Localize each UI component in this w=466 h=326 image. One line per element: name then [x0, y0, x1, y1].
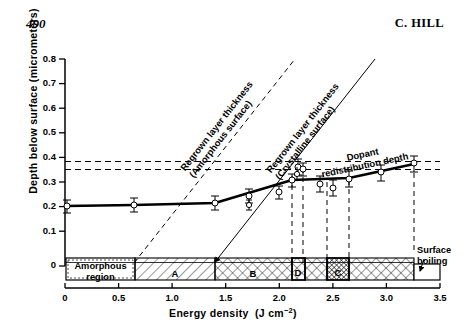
region-label-a: A: [155, 268, 195, 279]
x-tick-0.5: 0.5: [99, 292, 139, 303]
x-tick-3.5: 3.5: [420, 292, 460, 303]
drop-lines: [292, 168, 414, 263]
region-label-d: D: [278, 267, 318, 278]
x-axis: [65, 283, 440, 288]
figure-page: 490 C. HILL: [0, 0, 466, 326]
x-axis-label-text: Energy density (J cm−2): [169, 307, 297, 319]
x-tick-3.0: 3.0: [366, 292, 406, 303]
x-tick-2.5: 2.5: [313, 292, 353, 303]
x-tick-1.5: 1.5: [206, 292, 246, 303]
x-tick-2.0: 2.0: [259, 292, 299, 303]
y-axis-label: Depth below surface (micrometers): [27, 0, 39, 216]
y-tick-0.1: 0.1: [28, 225, 56, 236]
region-label-amorphous-text: Amorphous region: [74, 261, 126, 282]
region-label-c: C: [318, 267, 358, 278]
y-axis: [59, 59, 65, 266]
region-label-amorphous: Amorphous region: [66, 261, 135, 282]
x-tick-1.0: 1.0: [152, 292, 192, 303]
region-label-surface-boiling: Surface boiling: [417, 245, 465, 266]
y-tick-0: 0: [28, 259, 56, 270]
x-axis-label: Energy density (J cm−2): [0, 305, 466, 319]
x-tick-0: 0: [45, 292, 85, 303]
region-label-b: B: [233, 268, 273, 279]
